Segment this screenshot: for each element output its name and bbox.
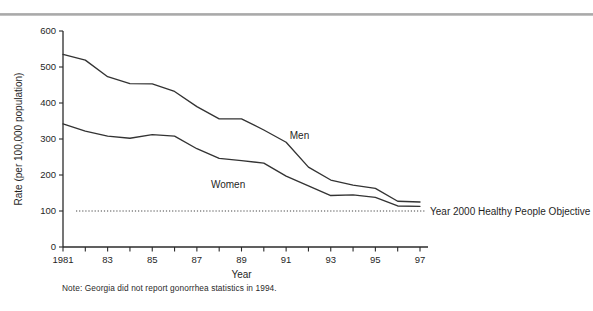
chart-text-labels: MenWomenYear 2000 Healthy People Objecti… <box>13 73 591 280</box>
y-axis-tick-label: 500 <box>40 61 56 72</box>
x-axis-tick-label: 83 <box>102 254 113 265</box>
series-label-women: Women <box>211 179 245 190</box>
y-axis-tick-label: 400 <box>40 97 56 108</box>
chart-canvas: 0100200300400500600 19818385878991939597… <box>0 0 593 311</box>
x-axis-tick-label: 87 <box>192 254 203 265</box>
x-axis-tick-label: 85 <box>147 254 158 265</box>
gonorrhea-rate-line-chart: 0100200300400500600 19818385878991939597… <box>0 0 593 311</box>
x-axis-tick-label: 89 <box>236 254 247 265</box>
x-axis-tick-label: 95 <box>370 254 381 265</box>
series-line-women <box>63 124 420 206</box>
x-axis-tick-label: 93 <box>325 254 336 265</box>
x-axis: 19818385878991939597 <box>52 247 428 265</box>
chart-footnote: Note: Georgia did not report gonorrhea s… <box>62 283 277 293</box>
x-axis-title: Year <box>231 269 252 280</box>
series-label-men: Men <box>290 130 309 141</box>
x-axis-tick-label: 1981 <box>52 254 73 265</box>
y-axis-tick-label: 100 <box>40 205 56 216</box>
x-axis-tick-label: 91 <box>281 254 292 265</box>
y-axis-tick-label: 300 <box>40 133 56 144</box>
x-axis-tick-label: 97 <box>415 254 426 265</box>
y-axis-tick-label: 600 <box>40 25 56 36</box>
y-axis-title: Rate (per 100,000 population) <box>13 73 24 206</box>
y-axis-tick-label: 0 <box>51 241 56 252</box>
objective-line-label: Year 2000 Healthy People Objective <box>430 206 591 217</box>
y-axis: 0100200300400500600 <box>40 25 63 252</box>
y-axis-tick-label: 200 <box>40 169 56 180</box>
